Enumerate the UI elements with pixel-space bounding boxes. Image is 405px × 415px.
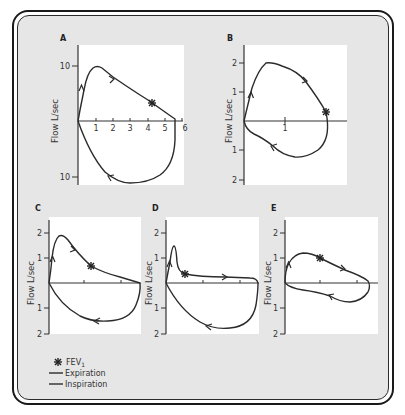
legend-expiration-label: Expiration <box>65 369 106 378</box>
panel-label: B <box>227 34 233 43</box>
y-tick-label: 2 <box>232 176 237 185</box>
panel-e: E 2 1 1 2 Flow L/sec <box>263 204 378 339</box>
panel-b: B 2 1 1 2 1 Flow L/sec <box>224 34 347 185</box>
x-tick-label: 5 <box>162 124 167 133</box>
y-axis-title: Flow L/sec <box>144 261 154 305</box>
plot-area <box>244 45 347 185</box>
panel-a: A 10 10 1 2 3 4 5 6 Flow L/sec <box>50 34 188 185</box>
y-tick-label: 2 <box>232 59 237 68</box>
fev1-star-icon <box>148 99 156 107</box>
fev1-star-icon <box>54 358 62 366</box>
y-tick-label: 1 <box>232 146 237 155</box>
y-tick-label: 2 <box>37 229 42 238</box>
y-axis-title: Flow L/sec <box>26 261 36 305</box>
panel-c: C 2 1 1 2 Flow L/sec <box>26 204 141 339</box>
panel-label: C <box>35 204 41 213</box>
plot-area <box>166 217 259 334</box>
panel-d: D 2 1 1 2 Flow L/sec <box>144 204 259 339</box>
y-tick-label: 10 <box>60 62 70 71</box>
y-tick-label: 1 <box>154 304 159 313</box>
y-tick-label: 1 <box>154 254 159 263</box>
panel-label: E <box>271 204 276 213</box>
plot-area <box>285 217 378 334</box>
panel-label: A <box>60 34 67 43</box>
y-tick-label: 2 <box>154 330 159 339</box>
legend: FEV1 Expiration Inspiration <box>49 358 107 389</box>
y-tick-label: 1 <box>37 254 42 263</box>
y-tick-label: 2 <box>154 229 159 238</box>
flow-volume-loops-figure: A 10 10 1 2 3 4 5 6 Flow L/sec <box>0 0 405 415</box>
x-tick-label: 3 <box>127 124 132 133</box>
y-tick-label: 10 <box>60 173 70 182</box>
y-axis-title: Flow L/sec <box>50 99 60 143</box>
x-tick-label: 4 <box>145 124 150 133</box>
y-tick-label: 1 <box>37 304 42 313</box>
legend-fev1-label: FEV1 <box>66 358 85 368</box>
y-tick-label: 1 <box>273 254 278 263</box>
fev1-star-icon <box>87 262 95 270</box>
y-tick-label: 2 <box>37 330 42 339</box>
y-tick-label: 2 <box>273 330 278 339</box>
x-tick-label: 1 <box>282 124 287 133</box>
y-tick-label: 2 <box>273 229 278 238</box>
y-axis-title: Flow L/sec <box>224 99 234 143</box>
x-tick-label: 6 <box>182 124 187 133</box>
fev1-star-icon <box>316 254 324 262</box>
legend-inspiration-label: Inspiration <box>65 380 107 389</box>
y-tick-label: 1 <box>273 304 278 313</box>
fev1-star-icon <box>322 108 330 116</box>
y-tick-label: 1 <box>232 88 237 97</box>
fev1-star-icon <box>181 270 189 278</box>
x-tick-label: 2 <box>110 124 115 133</box>
y-axis-title: Flow L/sec <box>263 261 273 305</box>
panel-label: D <box>152 204 159 213</box>
x-tick-label: 1 <box>93 124 98 133</box>
